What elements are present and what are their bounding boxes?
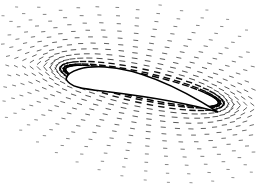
flow-vector — [136, 99, 143, 100]
flow-vector — [249, 135, 253, 136]
flow-vector — [203, 79, 209, 81]
flow-vector — [225, 48, 229, 49]
flow-vector — [195, 84, 201, 86]
flow-vector — [170, 112, 176, 113]
flow-vector — [144, 65, 150, 66]
flow-vector — [219, 69, 224, 70]
flow-vector — [55, 106, 59, 107]
flow-vector — [170, 67, 176, 68]
flow-vector — [48, 110, 52, 111]
flow-vector — [136, 97, 143, 99]
flow-vector — [71, 94, 76, 96]
flow-vector — [76, 126, 80, 127]
flow-vector — [3, 87, 7, 88]
flow-vector — [131, 67, 137, 68]
flow-vector — [23, 43, 27, 44]
flow-vector — [219, 93, 224, 96]
flow-vector — [100, 120, 105, 121]
flow-vector — [236, 73, 240, 74]
flow-vector — [220, 109, 226, 111]
flow-vector — [132, 58, 138, 59]
flow-vector — [154, 72, 160, 73]
flow-vector — [49, 50, 54, 51]
flow-vector — [180, 52, 185, 53]
flow-vector — [162, 53, 167, 54]
flow-vector — [159, 111, 165, 112]
flow-vector — [76, 91, 82, 93]
flow-vector — [39, 73, 43, 76]
flow-vector — [111, 99, 117, 101]
flow-vector — [202, 67, 207, 68]
flow-vector — [130, 128, 135, 129]
flow-vector — [176, 78, 182, 80]
flow-vector — [37, 101, 41, 102]
flow-vector — [229, 76, 234, 78]
flow-vector — [213, 73, 218, 75]
flow-vector — [239, 57, 243, 58]
flow-vector — [25, 52, 29, 54]
flow-vector — [131, 122, 136, 123]
flow-vector — [237, 101, 241, 105]
flow-vector — [103, 114, 108, 115]
flow-vector — [146, 131, 151, 132]
flow-vector — [60, 75, 65, 78]
flow-vector — [180, 109, 186, 110]
flow-vector — [248, 96, 252, 99]
flow-vector — [44, 46, 49, 47]
flow-vector — [247, 115, 251, 117]
flow-vector — [238, 83, 243, 85]
flow-vector — [21, 83, 25, 84]
flow-vector — [246, 52, 250, 53]
flow-vector — [60, 81, 65, 84]
flow-vector — [236, 118, 241, 120]
flow-vector — [69, 64, 76, 65]
flow-vector — [62, 89, 67, 91]
flow-vector — [227, 129, 232, 130]
flow-vector — [58, 61, 64, 63]
flow-vector — [132, 53, 137, 54]
flow-vector — [51, 72, 55, 76]
flow-vector — [231, 100, 234, 105]
flow-vector — [117, 118, 122, 119]
flow-vector — [209, 113, 215, 114]
flow-vector — [62, 51, 67, 52]
flow-vector — [57, 47, 62, 48]
flow-vector — [223, 79, 228, 81]
flow-vector — [188, 39, 192, 40]
flow-vector — [158, 106, 164, 107]
flow-vector — [168, 103, 175, 104]
flow-vector — [54, 59, 59, 61]
flow-vector — [121, 107, 127, 108]
flow-vector — [135, 106, 141, 107]
flow-vector — [81, 120, 85, 121]
flow-vector — [99, 96, 105, 98]
flow-vector — [146, 55, 151, 56]
flow-vector — [60, 101, 65, 102]
flow-vector — [176, 57, 181, 58]
flow-vector — [14, 57, 18, 58]
flow-vector — [209, 40, 213, 41]
flow-vector — [112, 131, 117, 132]
flow-vector — [189, 78, 195, 80]
flow-vector — [197, 71, 202, 73]
flow-vector — [99, 65, 106, 66]
flow-vector — [235, 97, 239, 100]
flow-vector — [5, 65, 9, 66]
flow-vector — [66, 98, 71, 100]
flow-vector — [219, 53, 223, 54]
flow-vector — [106, 108, 111, 109]
flow-vector — [224, 106, 229, 110]
flow-vector — [243, 102, 247, 106]
flow-vector — [22, 66, 26, 68]
flow-vector — [12, 85, 16, 86]
flow-vector — [225, 65, 229, 66]
flow-vector — [43, 79, 48, 82]
flow-vector — [147, 108, 153, 109]
flow-vector — [225, 112, 230, 114]
flow-vector — [14, 65, 18, 67]
flow-vector — [224, 93, 229, 96]
flow-vector — [245, 81, 249, 83]
flow-vector — [89, 109, 94, 110]
flow-vector — [67, 113, 72, 114]
flow-vector — [223, 97, 228, 101]
